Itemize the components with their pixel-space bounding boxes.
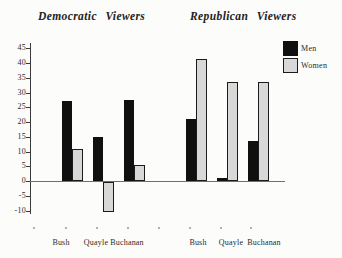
bar-chart-figure: Democratic Viewers Republican Viewers 45…: [0, 0, 342, 258]
category-label-buchanan: Buchanan: [238, 238, 290, 248]
bar-men-buchanan: [124, 100, 134, 181]
bar-women-buchanan: [134, 165, 145, 181]
x-tick-dot: [158, 227, 160, 229]
y-tick-label: 0: [2, 176, 26, 186]
x-tick-dot: [127, 227, 129, 229]
y-tick-label: 10: [2, 147, 26, 157]
y-tick-label: 45: [2, 43, 26, 53]
y-tick-mark: [26, 107, 30, 108]
y-tick-mark: [26, 137, 30, 138]
bar-women-quayle: [227, 82, 238, 181]
bar-women-quayle: [103, 182, 114, 212]
y-tick-label: 5: [2, 161, 26, 171]
y-tick-label: -5: [2, 191, 26, 201]
y-tick-label: -10: [2, 206, 26, 216]
bar-women-bush: [72, 149, 83, 181]
y-tick-label: 25: [2, 102, 26, 112]
x-tick-dot: [220, 227, 222, 229]
bar-men-quayle: [93, 137, 103, 181]
x-tick-dot: [189, 227, 191, 229]
y-tick-mark: [26, 63, 30, 64]
y-tick-mark: [26, 48, 30, 49]
y-tick-mark: [26, 196, 30, 197]
y-tick-mark: [26, 166, 30, 167]
bar-men-bush: [62, 101, 72, 181]
x-tick-dot: [250, 227, 252, 229]
zero-baseline: [30, 181, 285, 182]
plot-area: 454035302520151050-5-10BushQuayleBuchana…: [0, 0, 342, 258]
y-tick-label: 40: [2, 58, 26, 68]
category-label-buchanan: Buchanan: [101, 238, 153, 248]
y-axis-line: [30, 43, 31, 214]
bar-men-quayle: [217, 178, 227, 181]
y-tick-label: 30: [2, 88, 26, 98]
women-legend-swatch: [283, 58, 298, 73]
y-tick-mark: [26, 122, 30, 123]
men-legend-label: Men: [301, 44, 317, 54]
women-legend-label: Women: [301, 61, 327, 71]
y-tick-label: 20: [2, 117, 26, 127]
y-tick-mark: [26, 152, 30, 153]
y-tick-mark: [26, 93, 30, 94]
x-tick-dot: [33, 227, 35, 229]
men-legend-swatch: [283, 41, 298, 56]
bar-men-buchanan: [248, 141, 258, 181]
x-tick-dot: [96, 227, 98, 229]
y-tick-mark: [26, 78, 30, 79]
bar-men-bush: [186, 119, 196, 181]
bar-women-bush: [196, 59, 207, 181]
bar-women-buchanan: [258, 82, 269, 181]
x-tick-dot: [65, 227, 67, 229]
y-tick-mark: [26, 211, 30, 212]
y-tick-label: 15: [2, 132, 26, 142]
y-tick-label: 35: [2, 73, 26, 83]
